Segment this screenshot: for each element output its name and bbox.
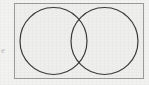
- venn-diagram-figure: e: [0, 0, 149, 85]
- universal-set-rectangle: [15, 4, 144, 79]
- margin-clipped-glyph: e: [1, 45, 10, 55]
- venn-diagram-canvas: [0, 0, 149, 85]
